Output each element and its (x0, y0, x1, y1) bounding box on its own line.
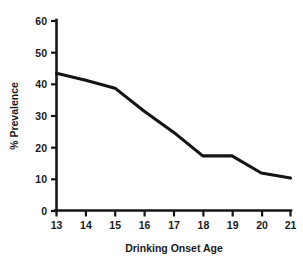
x-tick-label-16: 16 (139, 219, 151, 231)
x-tick-label-21: 21 (285, 219, 297, 231)
x-tick-label-15: 15 (109, 219, 121, 231)
x-axis-title: Drinking Onset Age (125, 242, 223, 254)
x-tick-label-14: 14 (80, 219, 92, 231)
x-tick-label-13: 13 (51, 219, 63, 231)
y-tick-label-20: 20 (35, 142, 47, 154)
x-tick-label-20: 20 (256, 219, 268, 231)
y-tick-label-30: 30 (35, 110, 47, 122)
y-tick-label-50: 50 (35, 47, 47, 59)
x-tick-label-17: 17 (168, 219, 180, 231)
data-series-line (57, 73, 291, 178)
y-tick-label-0: 0 (41, 205, 47, 217)
x-tick-label-19: 19 (227, 219, 239, 231)
chart-container: 60 50 40 30 20 10 0 13 14 15 16 17 18 19… (0, 0, 303, 266)
y-tick-label-60: 60 (35, 15, 47, 27)
x-axis-ticks (57, 211, 291, 217)
x-tick-label-18: 18 (198, 219, 210, 231)
y-tick-label-10: 10 (35, 173, 47, 185)
line-chart: 60 50 40 30 20 10 0 13 14 15 16 17 18 19… (0, 0, 303, 266)
y-tick-label-40: 40 (35, 78, 47, 90)
y-axis-title: % Prevalence (8, 82, 20, 150)
